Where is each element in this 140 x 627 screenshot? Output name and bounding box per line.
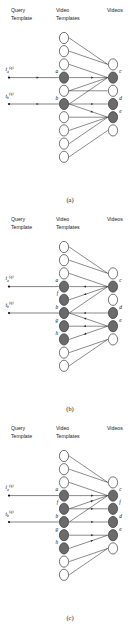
edge-arrowhead: [37, 103, 39, 105]
video-node-d: [108, 307, 117, 318]
video-template-node-h: [59, 543, 68, 554]
video-node-d: [108, 98, 117, 109]
video-template-node-empty: [59, 268, 68, 279]
edge-template-to-video: [69, 38, 108, 64]
panel-caption-c: (c): [66, 614, 73, 622]
edge-template-to-video: [69, 326, 108, 339]
query-template-label-tbq: tb(q): [6, 301, 15, 309]
query-template-label-taq: ta(q): [6, 484, 15, 492]
video-node-empty: [108, 294, 117, 305]
video-node-empty: [108, 85, 117, 96]
video-node-label-d: d: [119, 304, 122, 310]
edge-template-to-video: [69, 535, 108, 548]
panel-c: QueryTemplateVideoTemplatesVideosta(q)tb…: [0, 418, 140, 627]
edge-template-to-video: [69, 548, 108, 561]
edge-template-to-video: [69, 117, 108, 143]
edge-template-to-video: [69, 273, 108, 286]
video-template-node-label-h: h: [55, 539, 58, 545]
svg-text:Videos: Videos: [107, 7, 123, 13]
video-node-empty: [108, 125, 117, 136]
column-header-videos: Videos: [107, 7, 123, 13]
video-node-label-c: c: [119, 486, 122, 492]
panel-b: QueryTemplateVideoTemplatesVideosta(q)tb…: [0, 209, 140, 418]
edge-arrowhead: [84, 325, 86, 327]
video-template-node-empty: [59, 85, 68, 96]
svg-text:Template: Template: [11, 224, 32, 230]
column-header-query: QueryTemplate: [11, 425, 32, 439]
svg-text:Videos: Videos: [107, 216, 123, 222]
video-template-node-label-g: g: [55, 317, 58, 323]
edge-template-to-video: [69, 313, 108, 326]
svg-text:Query: Query: [11, 216, 26, 222]
video-template-node-empty: [59, 347, 68, 358]
video-template-node-label-b: b: [55, 95, 58, 101]
edge-template-to-video: [69, 339, 108, 365]
column-header-video-templates: VideoTemplates: [56, 7, 80, 21]
edge-arrowhead: [91, 534, 93, 536]
video-node-c: [108, 72, 117, 83]
query-template-label-tbq: tb(q): [6, 92, 15, 100]
edge-template-to-video: [69, 287, 108, 313]
video-node-f: [108, 503, 117, 514]
svg-text:Templates: Templates: [56, 224, 80, 230]
edge-template-to-video: [69, 456, 108, 482]
video-node-e: [108, 321, 117, 332]
edge-template-to-video: [69, 247, 108, 273]
video-template-node-b: [59, 516, 68, 527]
edge-arrowhead: [91, 103, 93, 105]
query-node-dot: [8, 521, 10, 523]
svg-text:Query: Query: [11, 7, 26, 13]
edge-template-to-video: [69, 78, 108, 91]
svg-text:Video: Video: [56, 425, 69, 431]
video-template-node-empty: [59, 112, 68, 123]
edge-arrowhead: [91, 521, 93, 523]
video-node-label-d: d: [119, 95, 122, 101]
edge-arrowhead: [91, 500, 94, 502]
query-node-dot: [8, 103, 10, 105]
query-node-dot: [8, 77, 10, 79]
video-node-label-e: e: [119, 108, 122, 114]
video-template-node-label-h: h: [55, 330, 58, 336]
video-template-node-empty: [59, 255, 68, 266]
svg-text:Videos: Videos: [107, 425, 123, 431]
video-template-node-g: [59, 530, 68, 541]
video-node-label-c: c: [119, 68, 122, 74]
video-template-node-empty: [59, 464, 68, 475]
panel-c-graph: QueryTemplateVideoTemplatesVideosta(q)tb…: [0, 418, 140, 627]
video-template-node-empty: [59, 477, 68, 488]
edge-arrowhead: [84, 293, 87, 295]
video-template-node-empty: [59, 151, 68, 162]
query-template-label-taq: ta(q): [6, 275, 15, 283]
video-node-label-d: d: [119, 513, 122, 519]
edge-template-to-video: [69, 117, 108, 130]
column-header-video-templates: VideoTemplates: [56, 216, 80, 230]
video-template-node-empty: [59, 46, 68, 57]
video-template-node-f: [59, 503, 68, 514]
svg-text:Templates: Templates: [56, 15, 80, 21]
edge-arrowhead: [91, 540, 94, 542]
video-node-e: [108, 112, 117, 123]
query-node-dot: [8, 495, 10, 497]
panel-caption-b: (b): [66, 405, 73, 413]
query-template-label-taq: ta(q): [6, 66, 15, 74]
edge-template-to-video: [69, 51, 108, 64]
video-template-node-empty: [59, 450, 68, 461]
column-header-videos: Videos: [107, 425, 123, 431]
video-node-empty: [108, 334, 117, 345]
column-header-videos: Videos: [107, 216, 123, 222]
video-node-empty: [108, 268, 117, 279]
video-template-node-empty: [59, 241, 68, 252]
video-template-node-label-b: b: [55, 513, 58, 519]
figure-container: QueryTemplateVideoTemplatesVideosta(q)tb…: [0, 0, 140, 627]
svg-text:ta(q): ta(q): [6, 66, 15, 74]
edge-arrowhead: [84, 286, 86, 288]
panel-a: QueryTemplateVideoTemplatesVideosta(q)tb…: [0, 0, 140, 209]
svg-text:Template: Template: [11, 15, 32, 21]
svg-text:ta(q): ta(q): [6, 275, 15, 283]
video-template-node-b: [59, 98, 68, 109]
edge-template-to-video: [69, 482, 108, 495]
video-node-label-e: e: [119, 526, 122, 532]
video-template-node-a: [59, 490, 68, 501]
video-node-label-e: e: [119, 317, 122, 323]
panel-a-graph: QueryTemplateVideoTemplatesVideosta(q)tb…: [0, 0, 140, 209]
